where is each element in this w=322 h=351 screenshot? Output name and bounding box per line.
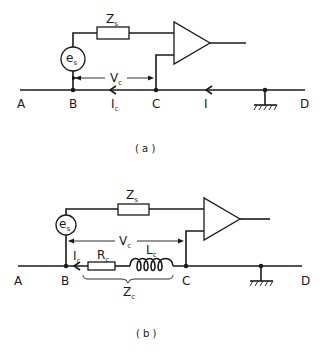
zs-label-a: Zs — [106, 12, 118, 28]
source-lead-top-a — [73, 33, 97, 47]
rc-label-b: Rc — [97, 248, 109, 264]
node-c-label-a: C — [152, 97, 160, 111]
node-d-label-a: D — [300, 97, 309, 111]
node-b-dot-a — [71, 88, 76, 93]
amplifier-a — [174, 22, 210, 64]
amplifier-b — [204, 198, 240, 240]
zc-label-b: Zc — [123, 285, 135, 301]
node-b-label-b: B — [61, 274, 69, 288]
ic-label-b: Ic — [73, 249, 81, 265]
source-lead-top-b — [66, 209, 118, 215]
node-d-label-b: D — [301, 274, 310, 288]
node-a-label-b: A — [14, 274, 23, 288]
caption-b: ( b ) — [136, 328, 157, 339]
node-c-dot-b — [184, 264, 189, 269]
ground-symbol-b — [250, 281, 273, 286]
node-c-label-b: C — [182, 274, 190, 288]
resistor-zs-a — [97, 27, 129, 39]
vc-arrowhead-left-b — [68, 239, 74, 244]
vc-label-b: Vc — [119, 234, 131, 250]
lc-label-b: Lc — [146, 243, 157, 259]
amp-input-2-wire-a — [156, 55, 174, 90]
caption-a: ( a ) — [135, 143, 155, 154]
diagram-a: es Zs Vc A B C D — [17, 12, 309, 154]
vc-arrowhead-right-a — [148, 76, 154, 81]
resistor-rc-b — [88, 262, 115, 270]
node-a-label-a: A — [17, 97, 26, 111]
vc-arrowhead-left-a — [75, 76, 81, 81]
node-b-dot-b — [64, 264, 69, 269]
ic-label-a: Ic — [111, 97, 119, 113]
zs-label-b: Zs — [126, 188, 138, 204]
vc-arrowhead-right-b — [178, 239, 184, 244]
vc-label-a: Vc — [110, 71, 122, 87]
resistor-zs-b — [118, 204, 149, 215]
node-b-label-a: B — [69, 97, 77, 111]
amp-input-2-wire-b — [186, 231, 204, 266]
inductor-lc-b — [130, 259, 173, 271]
node-c-dot-a — [154, 88, 159, 93]
circuit-figure: es Zs Vc A B C D — [0, 0, 322, 351]
ground-symbol-a — [254, 105, 277, 110]
diagram-b: es Zs Vc A B C D — [14, 188, 310, 339]
zc-brace-b — [83, 275, 173, 283]
i-label-a: I — [204, 97, 208, 111]
